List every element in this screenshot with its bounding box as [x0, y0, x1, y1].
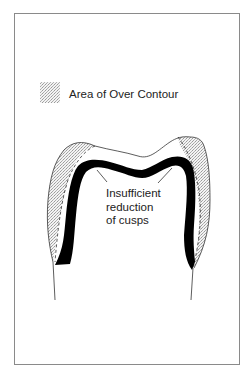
pointer-left [97, 170, 107, 182]
annotation-line-1: Insufficient [106, 187, 161, 201]
annotation-insufficient-reduction: Insufficient reduction of cusps [106, 187, 161, 228]
legend-label: Area of Over Contour [69, 88, 178, 100]
root-line-left [53, 262, 55, 300]
annotation-line-3: of cusps [106, 214, 161, 228]
legend-swatch [40, 82, 60, 103]
annotation-line-2: reduction [106, 201, 161, 215]
root-line-right [191, 268, 193, 300]
